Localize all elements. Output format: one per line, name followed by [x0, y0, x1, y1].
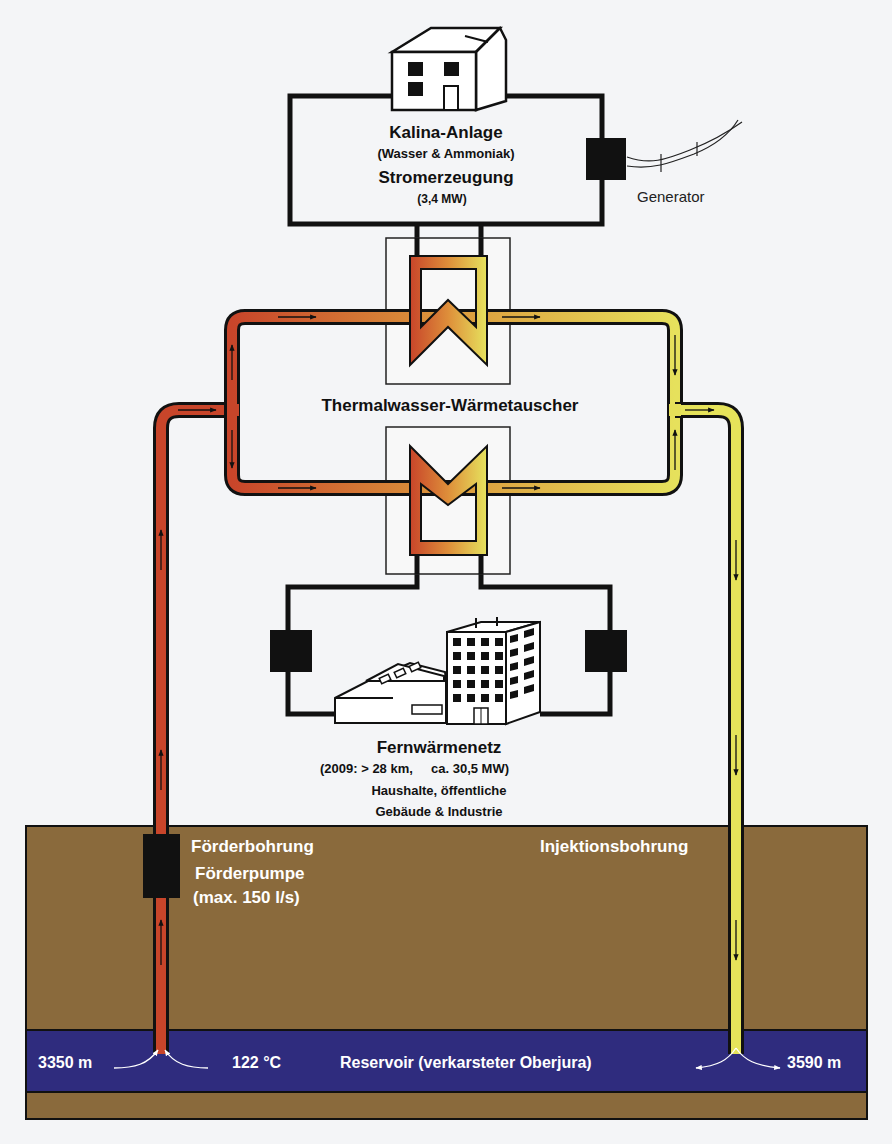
district-heating-consumers-1: Haushalte, öffentliche [371, 783, 506, 798]
production-depth: 3350 m [38, 1054, 92, 1071]
injection-depth: 3590 m [787, 1054, 841, 1071]
ground-lower-layer [26, 1092, 867, 1119]
plant-building-icon [392, 28, 506, 110]
generator-label: Generator [637, 188, 705, 205]
reservoir-label: Reservoir (verkarsteter Oberjura) [340, 1054, 592, 1071]
district-heating-network: Fernwärmenetz (2009: > 28 km, ca. 30,5 M… [270, 560, 627, 819]
reservoir-temperature: 122 °C [232, 1054, 282, 1071]
kalina-plant: Generator Kalina-Anlage (Wasser & Ammoni… [290, 28, 742, 262]
production-pump-rate: (max. 150 l/s) [193, 888, 300, 907]
industrial-building-icon [335, 662, 446, 723]
plant-function: Stromerzeugung [378, 168, 513, 187]
pump-box-left [270, 630, 312, 672]
district-heating-length: (2009: > 28 km, [320, 761, 413, 776]
office-tower-icon [447, 617, 540, 724]
pump-box-right [585, 630, 627, 672]
plant-power: (3,4 MW) [417, 192, 466, 206]
heat-exchanger-label: Thermalwasser-Wärmetauscher [321, 396, 578, 415]
injection-well-label: Injektionsbohrung [540, 837, 688, 856]
district-heating-power: ca. 30,5 MW) [431, 761, 509, 776]
district-heating-title: Fernwärmenetz [377, 738, 502, 757]
production-pump-label: Förderpumpe [195, 864, 305, 883]
plant-title: Kalina-Anlage [389, 123, 502, 142]
geothermal-diagram: Generator Kalina-Anlage (Wasser & Ammoni… [0, 0, 892, 1144]
district-heating-consumers-2: Gebäude & Industrie [375, 804, 502, 819]
plant-subtitle: (Wasser & Ammoniak) [377, 146, 514, 161]
production-pump-box [143, 834, 180, 898]
production-well-label: Förderbohrung [191, 837, 314, 856]
power-line-icon [627, 120, 742, 172]
generator-box [586, 138, 626, 180]
